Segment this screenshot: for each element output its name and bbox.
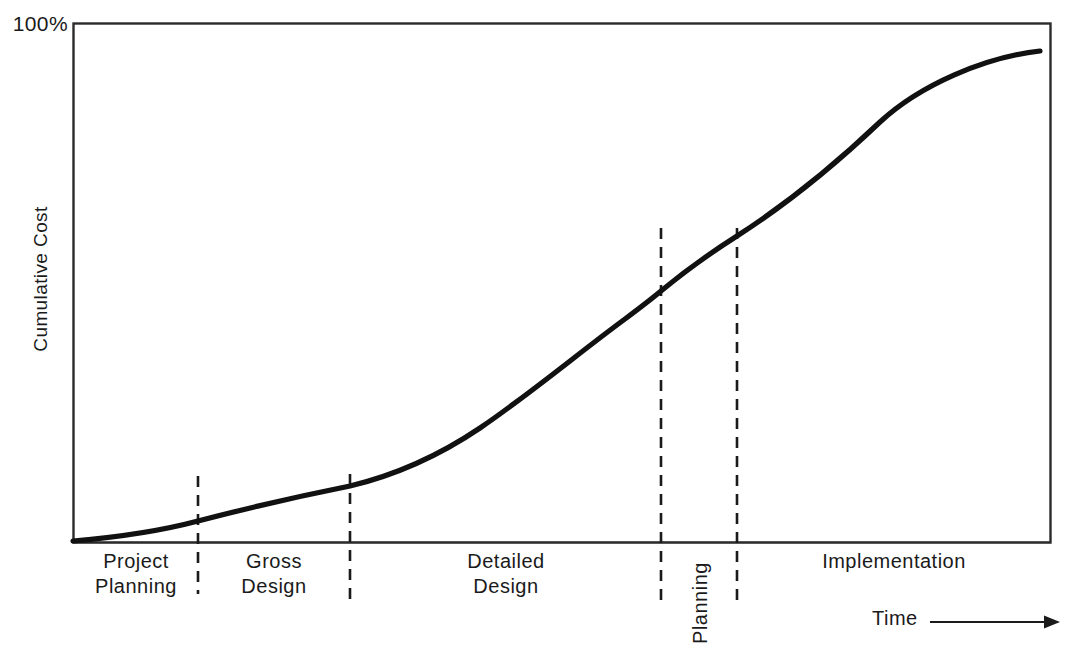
phase-label-line1: Detailed	[352, 549, 660, 574]
phase-label-project-planning: Project Planning	[76, 549, 196, 599]
phase-label-implementation: Implementation	[740, 549, 1048, 574]
phase-label-line1: Gross	[200, 549, 348, 574]
y-axis-title: Cumulative Cost	[30, 189, 52, 369]
phase-label-line2: Design	[352, 574, 660, 599]
phase-label-line1: Project	[76, 549, 196, 574]
time-arrow-icon	[930, 616, 1060, 629]
cumulative-cost-curve	[73, 51, 1040, 541]
phase-label-detailed-design: Detailed Design	[352, 549, 660, 599]
cumulative-cost-chart: 100% Cumulative Cost Project Planning Gr…	[0, 0, 1070, 652]
phase-label-line1: Implementation	[740, 549, 1048, 574]
phase-divider-group	[198, 228, 737, 600]
x-axis-title: Time	[872, 606, 918, 630]
phase-label-gross-design: Gross Design	[200, 549, 348, 599]
phase-label-planning: Planning	[689, 543, 711, 652]
phase-label-line2: Planning	[76, 574, 196, 599]
phase-label-line1: Planning	[689, 543, 711, 652]
phase-label-line2: Design	[200, 574, 348, 599]
y-axis-max-tick-label: 100%	[6, 12, 68, 36]
